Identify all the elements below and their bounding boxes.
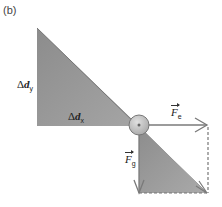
vector-f: F bbox=[171, 106, 178, 118]
sub-g: g bbox=[132, 160, 136, 167]
sub-y: y bbox=[30, 85, 34, 92]
label-force-fe: Fe bbox=[171, 106, 182, 120]
panel-label: (b) bbox=[3, 4, 16, 16]
sub-x: x bbox=[81, 117, 85, 124]
force-diagram bbox=[0, 0, 222, 207]
label-delta-dy: Δdy bbox=[17, 78, 33, 92]
label-delta-dx: Δdx bbox=[68, 110, 84, 124]
object-center-dot bbox=[138, 124, 141, 127]
sub-e: e bbox=[178, 113, 182, 120]
vector-f: F bbox=[125, 153, 132, 165]
label-force-fg: Fg bbox=[125, 153, 136, 167]
